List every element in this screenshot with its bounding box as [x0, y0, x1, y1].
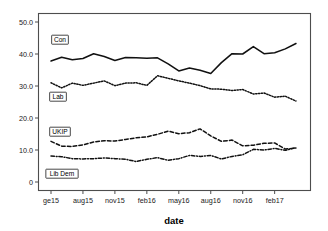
- series-line-lib-dem: [51, 148, 296, 162]
- x-axis-title: date: [164, 215, 184, 226]
- x-tick-label: nov16: [233, 196, 253, 205]
- y-tick-label: 50.0: [19, 18, 33, 27]
- y-axis-ticks: 010.020.030.040.050.0: [19, 18, 39, 187]
- x-tick-label: aug15: [73, 196, 93, 205]
- data-series-group: [51, 43, 296, 161]
- x-tick-label: nov15: [105, 196, 125, 205]
- y-tick-label: 0: [29, 178, 33, 187]
- series-label-lib-dem: Lib Dem: [50, 170, 75, 177]
- chart-container: 010.020.030.040.050.0 ge15aug15nov15feb1…: [0, 0, 328, 231]
- x-tick-label: feb17: [266, 196, 284, 205]
- y-tick-label: 10.0: [19, 146, 33, 155]
- series-label-ukip: UKIP: [52, 128, 68, 135]
- x-tick-label: ge15: [43, 196, 59, 205]
- line-chart: 010.020.030.040.050.0 ge15aug15nov15feb1…: [0, 0, 328, 231]
- x-axis-ticks: ge15aug15nov15feb16may16aug16nov16feb17: [43, 191, 284, 205]
- x-tick-label: feb16: [138, 196, 156, 205]
- series-line-lab: [51, 76, 296, 101]
- y-tick-label: 40.0: [19, 50, 33, 59]
- series-line-con: [51, 43, 296, 73]
- y-tick-label: 20.0: [19, 114, 33, 123]
- plot-border: [39, 14, 311, 191]
- plot-frame: [39, 14, 311, 191]
- series-label-con: Con: [54, 36, 66, 43]
- series-line-ukip: [51, 129, 296, 149]
- x-tick-label: may16: [168, 196, 190, 205]
- x-tick-label: aug16: [201, 196, 221, 205]
- series-label-lab: Lab: [52, 93, 63, 100]
- y-tick-label: 30.0: [19, 82, 33, 91]
